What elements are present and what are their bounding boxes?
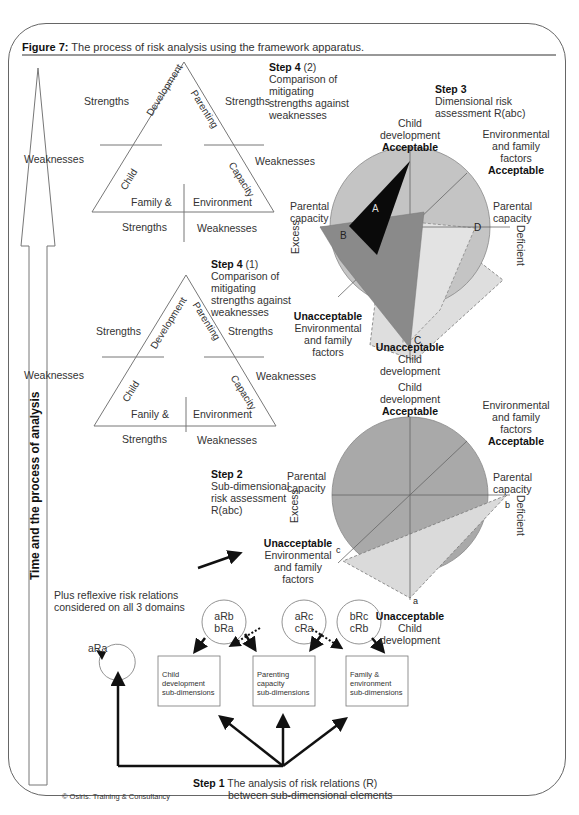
tri-top-bottom-weaknesses: Weaknesses: [197, 222, 257, 234]
box-child-development: Childdevelopmentsub-dimensions: [162, 670, 215, 697]
step3-caption: Step 3 Dimensional risk assessment R(abc…: [435, 83, 525, 119]
box-parenting-capacity: Parentingcapacitysub-dimensions: [257, 670, 310, 697]
ct-right-label: Parentalcapacity: [493, 200, 532, 224]
tri-bot-bottom-strengths: Strengths: [122, 433, 167, 445]
svg-text:b: b: [505, 500, 510, 510]
ct-bl-label: UnacceptableEnvironmentaland familyfacto…: [290, 310, 366, 358]
tri-top-base-left: Family &: [131, 196, 172, 208]
svg-text:B: B: [340, 230, 347, 241]
tri-top-right-weaknesses: Weaknesses: [255, 155, 315, 167]
step4-1-caption: Step 4 (1) Comparison of mitigating stre…: [211, 258, 291, 318]
tri-top-left-weaknesses: Weaknesses: [24, 153, 84, 165]
cb-excess-label: Excess: [288, 489, 300, 523]
step2-caption: Step 2 Sub-dimensional risk assessment R…: [211, 468, 289, 516]
svg-text:D: D: [474, 222, 481, 233]
step1-caption: Step 1 The analysis of risk relations (R…: [193, 777, 377, 789]
tri-top-right-strengths: Strengths: [225, 95, 270, 107]
copyright: © Osiris: Training & Consultancy: [62, 792, 170, 801]
cb-tr-label: Environmentaland familyfactorsAcceptable: [466, 399, 566, 447]
step1-caption-line2: between sub-dimensional elements: [228, 789, 393, 801]
tri-bot-base-right: Environment: [193, 408, 252, 420]
tri-bot-right-weaknesses: Weaknesses: [256, 370, 316, 382]
step4-2-caption: Step 4 (2) Comparison of mitigating stre…: [269, 61, 349, 121]
svg-text:a: a: [413, 596, 418, 606]
triangle-top: [92, 62, 274, 242]
ct-bottom-label: UnacceptableChilddevelopment: [370, 341, 450, 377]
cb-right-label: Parentalcapacity: [493, 471, 532, 495]
tri-top-base-right: Environment: [193, 196, 252, 208]
tri-bot-base-left: Fanily &: [131, 408, 169, 420]
tri-bot-bottom-weaknesses: Weaknesses: [197, 434, 257, 446]
svg-text:A: A: [372, 203, 379, 214]
ct-deficient-label: Deficient: [515, 225, 527, 266]
tri-bot-left-weaknesses: Weaknesses: [24, 369, 84, 381]
cb-top-label: ChilddevelopmentAcceptable: [370, 381, 450, 417]
ct-excess-label: Excess: [289, 220, 301, 254]
reflexive-note: Plus reflexive risk relationsconsidered …: [54, 589, 185, 613]
relation-circle-ab: aRbbRa: [202, 610, 246, 634]
relation-circle-bc: bRccRb: [337, 610, 381, 634]
svg-text:c: c: [336, 545, 341, 555]
ct-top-label: ChilddevelopmentAcceptable: [370, 117, 450, 153]
tri-bot-right-strengths: Strengths: [228, 325, 273, 337]
cb-deficient-label: Deficient: [515, 495, 527, 536]
cb-bl-label: UnacceptableEnvironmentaland familyfacto…: [260, 537, 336, 585]
tri-top-bottom-strengths: Strengths: [122, 221, 167, 233]
cb-bottom-label: UnacceptableChilddevelopment: [370, 610, 450, 646]
tri-bot-left-strengths: Strengths: [96, 325, 141, 337]
ct-tr-label: Environmentaland familyfactorsAcceptable: [466, 128, 566, 176]
relation-circle-ac: aRccRa: [282, 610, 326, 634]
timeline-label: Time and the process of analysis: [29, 391, 41, 580]
tri-top-left-strengths: Strengths: [84, 95, 129, 107]
box-family-environment: Family &environmentsub-dimensions: [350, 670, 403, 697]
self-relation-label: aRa: [88, 642, 107, 654]
